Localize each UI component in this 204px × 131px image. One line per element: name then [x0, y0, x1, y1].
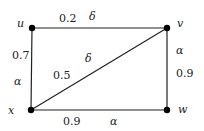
edge-u-x-symbol: α: [14, 75, 22, 88]
edge-x-w-symbol: α: [110, 115, 118, 128]
edge-x-w-weight: 0.9: [63, 115, 81, 128]
node-label-x: x: [8, 104, 15, 117]
edge-u-v-symbol: δ: [89, 10, 96, 23]
edge-u-x-weight: 0.7: [12, 49, 30, 62]
node-label-v: v: [177, 17, 184, 30]
graph-diagram: u v x w 0.2 δ 0.7 α 0.5 δ α 0.9 0.9 α: [0, 0, 204, 131]
node-label-w: w: [178, 103, 188, 116]
edge-x-v-weight: 0.5: [53, 69, 71, 82]
node-u: [29, 25, 35, 31]
node-v: [164, 25, 170, 31]
node-x: [28, 107, 34, 113]
edge-x-v: [31, 28, 167, 110]
node-label-u: u: [17, 17, 24, 30]
edge-v-w-symbol: α: [176, 44, 184, 57]
edge-x-v-symbol: δ: [85, 52, 92, 65]
edge-u-x: [31, 28, 32, 110]
edge-u-v-weight: 0.2: [59, 12, 77, 25]
node-w: [164, 107, 170, 113]
edge-v-w-weight: 0.9: [176, 67, 194, 80]
